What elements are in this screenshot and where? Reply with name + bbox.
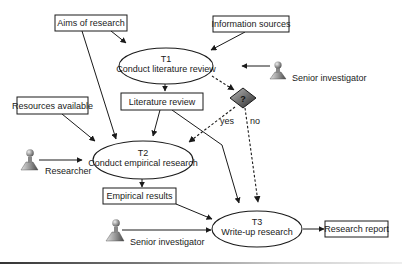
arrow-litreview-to-t2 bbox=[153, 110, 160, 136]
svg-text:Researcher: Researcher bbox=[45, 166, 92, 176]
actor-senior-investigator-top: Senior investigator bbox=[270, 61, 367, 83]
arrow-aims-to-t2 bbox=[82, 31, 116, 139]
svg-text:Conduct empirical research: Conduct empirical research bbox=[88, 158, 198, 168]
task-t3: T3 Write-up research bbox=[212, 211, 302, 247]
arrow-aims-to-t1 bbox=[111, 31, 126, 43]
svg-text:Senior investigator: Senior investigator bbox=[292, 73, 367, 83]
svg-text:Literature review: Literature review bbox=[129, 97, 196, 107]
arrow-info-to-t1 bbox=[211, 32, 245, 50]
process-diagram: Aims of research Information sources Lit… bbox=[0, 0, 402, 264]
decision-yes-label: yes bbox=[220, 116, 235, 126]
svg-text:Research report: Research report bbox=[324, 224, 389, 234]
person-icon bbox=[21, 149, 38, 170]
svg-text:?: ? bbox=[240, 94, 246, 104]
svg-text:Conduct literature review: Conduct literature review bbox=[116, 64, 216, 74]
svg-text:Information sources: Information sources bbox=[211, 19, 291, 29]
svg-text:T2: T2 bbox=[138, 148, 149, 158]
arrow-results-to-t3 bbox=[176, 204, 212, 219]
svg-text:T3: T3 bbox=[252, 217, 263, 227]
person-icon bbox=[270, 61, 286, 79]
output-literature-review: Literature review bbox=[121, 93, 203, 110]
actor-senior-investigator-bottom: Senior investigator bbox=[106, 219, 205, 247]
task-t1: T1 Conduct literature review bbox=[116, 48, 216, 84]
person-icon bbox=[106, 219, 124, 241]
input-information-sources: Information sources bbox=[211, 16, 291, 32]
actor-researcher: Researcher bbox=[21, 149, 92, 176]
output-research-report: Research report bbox=[324, 221, 389, 237]
svg-text:Aims of research: Aims of research bbox=[57, 18, 125, 28]
svg-text:T1: T1 bbox=[161, 54, 172, 64]
decision-diamond: ? bbox=[230, 88, 256, 108]
input-resources-available: Resources available bbox=[12, 97, 93, 114]
arrow-t1-to-decision bbox=[212, 76, 234, 90]
decision-no-label: no bbox=[250, 116, 260, 126]
input-aims-of-research: Aims of research bbox=[55, 15, 127, 31]
svg-text:Empirical results: Empirical results bbox=[106, 191, 173, 201]
output-empirical-results: Empirical results bbox=[103, 188, 176, 204]
svg-text:Senior investigator: Senior investigator bbox=[130, 237, 205, 247]
svg-text:Resources available: Resources available bbox=[12, 101, 93, 111]
arrow-resources-to-t2 bbox=[62, 114, 95, 141]
task-t2: T2 Conduct empirical research bbox=[88, 141, 198, 179]
svg-text:Write-up research: Write-up research bbox=[221, 227, 292, 237]
